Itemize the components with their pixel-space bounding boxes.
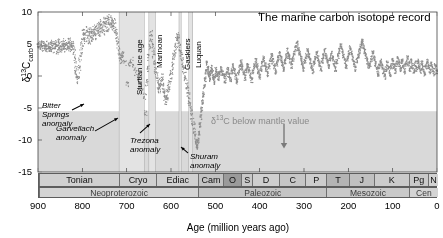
- figure-marine-carbon-isotope-record: δ13Ccarb 1050-5-10-15 900800700600500400…: [0, 0, 443, 238]
- annotation-line: anomaly: [190, 161, 220, 170]
- period-p: P: [305, 174, 326, 186]
- period-k: K: [374, 174, 409, 186]
- y-axis-label-subscript: carb: [27, 48, 34, 62]
- x-tick-label: 500: [200, 200, 230, 211]
- glaciation-label-gaskiers: Gaskiers: [183, 38, 192, 70]
- period-t: T: [326, 174, 349, 186]
- y-tick-label: 10: [10, 6, 32, 17]
- period-o: O: [223, 174, 241, 186]
- period-j: J: [349, 174, 374, 186]
- annotation-line: Garvellach: [56, 124, 94, 133]
- era-paleozoic: Paleozoic: [198, 188, 326, 197]
- annotation-line: anomaly: [130, 145, 160, 154]
- era-mesozoic: Mesozoic: [326, 188, 408, 197]
- period-s: S: [241, 174, 252, 186]
- geologic-era-bar: NeoproterozoicPaleozoicMesozoicCen: [38, 187, 437, 198]
- x-tick-label: 800: [67, 200, 97, 211]
- x-tick-label: 900: [23, 200, 53, 211]
- era-cen: Cen: [409, 188, 438, 197]
- annotation-trezona: Trezonaanomaly: [130, 136, 160, 154]
- y-tick-label: 5: [10, 38, 32, 49]
- x-tick-label: 700: [112, 200, 142, 211]
- glaciation-label-luquan: Luquan: [194, 41, 203, 68]
- mantle-value-note: δ13C below mantle value: [211, 114, 309, 126]
- y-tick-label: 0: [10, 70, 32, 81]
- y-tick-label: -10: [10, 134, 32, 145]
- period-tonian: Tonian: [39, 174, 119, 186]
- geologic-period-bar: TonianCryoEdiacCamOSDCPTJKPgN: [38, 173, 437, 187]
- period-ediac: Ediac: [156, 174, 198, 186]
- x-tick-label: 400: [245, 200, 275, 211]
- period-cam: Cam: [198, 174, 223, 186]
- annotation-garvellach: Garvellachanomaly: [56, 124, 94, 142]
- annotation-shuram: Shuramanomaly: [190, 152, 220, 170]
- x-tick-label: 300: [289, 200, 319, 211]
- annotation-line: Bitter: [42, 101, 72, 110]
- glaciation-label-sturtian: Sturtian ice age: [135, 39, 144, 95]
- period-n: N: [428, 174, 438, 186]
- period-c: C: [279, 174, 306, 186]
- y-axis-label: δ13Ccarb: [20, 20, 34, 110]
- x-axis-label: Age (million years ago): [138, 222, 338, 233]
- era-neoproterozoic: Neoproterozoic: [39, 188, 198, 197]
- x-tick-label: 100: [378, 200, 408, 211]
- x-tick-label: 0: [422, 200, 443, 211]
- annotation-line: Shuram: [190, 152, 220, 161]
- x-tick-label: 200: [333, 200, 363, 211]
- annotation-line: anomaly: [56, 133, 94, 142]
- x-tick-label: 600: [156, 200, 186, 211]
- annotation-line: Trezona: [130, 136, 160, 145]
- period-d: D: [252, 174, 279, 186]
- period-cryo: Cryo: [119, 174, 157, 186]
- mantle-note-text: C below mantle value: [223, 116, 309, 126]
- glaciation-label-marinoan: Marinoan: [155, 35, 164, 68]
- annotation-line: Springs: [42, 110, 72, 119]
- period-pg: Pg: [409, 174, 428, 186]
- y-tick-label: -5: [10, 102, 32, 113]
- chart-title: The marine carbon isotope record: [258, 11, 431, 23]
- y-tick-label: -15: [10, 166, 32, 177]
- y-axis-label-element: C: [21, 62, 32, 69]
